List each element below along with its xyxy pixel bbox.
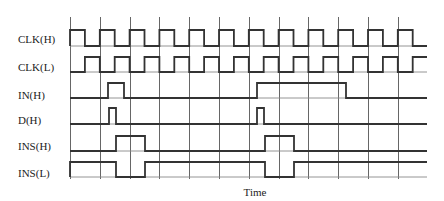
waveform-clk-l [70, 57, 427, 72]
signal-label: CLK(H) [18, 33, 56, 46]
waveform-d-h [70, 108, 427, 124]
signal-label: D(H) [18, 114, 42, 127]
waveform-in-h [70, 83, 427, 98]
waveforms [70, 30, 427, 177]
timing-diagram: CLK(H)CLK(L)IN(H)D(H)INS(H)INS(L) Time [0, 0, 444, 201]
waveform-clk-h [70, 30, 427, 46]
waveform-ins-h [70, 136, 427, 151]
signal-labels: CLK(H)CLK(L)IN(H)D(H)INS(H)INS(L) [18, 33, 56, 180]
signal-label: IN(H) [18, 89, 45, 102]
waveform-ins-l [70, 162, 427, 177]
x-axis-label: Time [244, 186, 267, 198]
signal-label: INS(H) [18, 140, 51, 153]
signal-label: INS(L) [18, 167, 50, 180]
signal-label: CLK(L) [18, 61, 54, 74]
